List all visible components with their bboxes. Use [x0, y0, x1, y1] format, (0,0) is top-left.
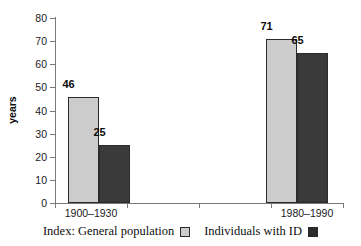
y-axis-label-50: 50 [7, 82, 47, 93]
bar-value-1900-1930-general-population: 46 [53, 79, 84, 90]
x-axis-category-label-2: 1980–1990 [267, 207, 347, 219]
y-axis-label-30: 30 [7, 129, 47, 140]
legend-swatch-dark-icon [308, 227, 318, 237]
bar-1980-1990-individuals-with-id [297, 53, 328, 203]
y-axis-label-40: 40 [7, 106, 47, 117]
legend-swatch-light-icon [180, 227, 190, 237]
bar-1900-1930-individuals-with-id [99, 145, 130, 203]
y-axis-label-20: 20 [7, 152, 47, 163]
bar-1900-1930-general-population [68, 97, 99, 203]
bar-value-1980-1990-general-population: 71 [251, 21, 282, 32]
y-axis-label-70: 70 [7, 36, 47, 47]
bar-value-1980-1990-individuals-with-id: 65 [282, 35, 313, 46]
y-axis-label-0: 0 [7, 198, 47, 209]
x-axis-tick-2 [199, 203, 200, 208]
chart-legend: Index: General population Individuals wi… [0, 224, 361, 239]
bar-value-1900-1930-individuals-with-id: 25 [84, 127, 115, 138]
legend-item-general-population: Index: General population [43, 224, 190, 239]
legend-label-general-population: Index: General population [43, 224, 174, 239]
y-axis-label-80: 80 [7, 13, 47, 24]
bar-1980-1990-general-population [266, 39, 297, 203]
x-axis-category-label-1: 1900–1930 [51, 207, 131, 219]
y-axis-label-60: 60 [7, 59, 47, 70]
legend-item-individuals-with-id: Individuals with ID [204, 224, 318, 239]
bar-chart: years 80 70 60 50 40 30 20 10 0 46 25 71… [0, 0, 361, 246]
y-axis-label-10: 10 [7, 175, 47, 186]
legend-label-individuals-with-id: Individuals with ID [204, 224, 302, 239]
